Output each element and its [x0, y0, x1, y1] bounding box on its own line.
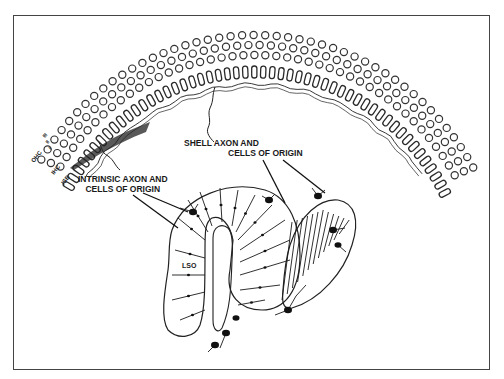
inner-hair-cell [138, 99, 149, 112]
cell-body [259, 286, 262, 288]
dendrite [303, 214, 313, 276]
inner-hair-cell [368, 103, 379, 116]
outer-hair-cell [137, 72, 144, 79]
outer-hair-cell [136, 84, 143, 91]
outer-hair-cell [100, 85, 107, 92]
outer-hair-cell [189, 50, 196, 57]
outer-hair-cell [418, 126, 425, 133]
outer-hair-cell [60, 140, 67, 147]
outer-hair-cell [160, 50, 167, 57]
outer-hair-cell [330, 44, 337, 51]
outer-hair-cell [434, 129, 441, 136]
inner-hair-cell [295, 70, 303, 83]
outer-hair-cell [75, 122, 82, 129]
outer-hair-cell [432, 143, 439, 150]
outer-hair-cell [91, 106, 98, 113]
inner-hair-cell [242, 66, 248, 78]
intrinsic-label-line2: CELLS OF ORIGIN [78, 184, 168, 194]
inner-hair-cell [123, 109, 134, 122]
inner-hair-cell [197, 73, 205, 86]
outer-hair-cell [273, 52, 280, 59]
outer-hair-cell [460, 168, 467, 175]
outer-hair-cell [193, 39, 200, 46]
inner-hair-cell [329, 81, 338, 94]
outer-hair-cell [239, 32, 246, 39]
outer-hair-cell [155, 74, 162, 81]
outer-hair-cell [419, 98, 426, 105]
outer-hair-cell [372, 64, 379, 71]
inner-hair-cell [375, 108, 386, 121]
outer-hair-cell [323, 53, 330, 60]
cell-body [264, 266, 267, 268]
dendrite [313, 210, 323, 264]
cochlea-lso-diagram [0, 0, 504, 379]
inner-hair-cell [179, 78, 188, 91]
cell-body [222, 330, 230, 336]
outer-hair-cell [344, 61, 351, 68]
outer-hair-cell [267, 42, 274, 49]
neuron-cell-bodies [187, 193, 342, 348]
lso-label: LSO [182, 262, 196, 269]
outer-hair-cell [451, 172, 458, 179]
outer-hair-cell [251, 51, 258, 58]
outer-hair-cell [204, 36, 211, 43]
outer-hair-cell [307, 38, 314, 45]
outer-hair-cell [126, 90, 133, 97]
intrinsic-axon-label: INTRINSIC AXON AND CELLS OF ORIGIN [78, 174, 168, 194]
outer-hair-cell [178, 53, 185, 60]
inner-hair-cell [162, 85, 172, 98]
inner-hair-cell [337, 85, 347, 98]
cell-body [261, 234, 264, 236]
outer-hair-cell [383, 83, 390, 90]
outer-hair-cell [117, 97, 124, 104]
inner-hair-cell [215, 69, 222, 82]
outer-hair-cell [425, 134, 432, 141]
outer-hair-cell [364, 71, 371, 78]
outer-hair-cell [312, 49, 319, 56]
outer-hair-cell [305, 58, 312, 65]
outer-hair-cell [91, 92, 98, 99]
outer-hair-cell [165, 69, 172, 76]
inner-hair-cell [154, 89, 164, 102]
outer-hair-cell [410, 104, 417, 111]
outer-hair-cell [402, 97, 409, 104]
cell-body [187, 295, 190, 297]
outer-hair-cell [410, 118, 417, 125]
outer-hair-cell [356, 78, 363, 85]
inner-hair-cell [352, 93, 362, 106]
cell-body [233, 315, 240, 321]
outer-hair-cell [385, 96, 392, 103]
inner-hair-cell [224, 68, 231, 81]
dendrite [339, 220, 349, 234]
outer-hair-cell [182, 42, 189, 49]
outer-hair-cell [445, 162, 452, 169]
outer-hair-cell [262, 52, 269, 59]
outer-hair-cell [109, 91, 116, 98]
outer-hair-cell [347, 73, 354, 80]
outer-hair-cell [351, 53, 358, 60]
outer-hair-cell [374, 77, 381, 84]
outer-hair-cell [362, 58, 369, 65]
cell-body [197, 215, 200, 217]
cell-body [335, 242, 342, 248]
outer-hair-cell [245, 42, 252, 49]
outer-hair-cell [401, 83, 408, 90]
inner-hair-cell [171, 82, 180, 95]
outer-hair-cell [284, 54, 291, 61]
outer-hair-cell [290, 45, 297, 52]
cell-body [329, 227, 337, 233]
outer-hair-cell [227, 33, 234, 40]
outer-hair-cell [402, 110, 409, 117]
outer-hair-cell [392, 76, 399, 83]
outer-hair-cell [222, 43, 229, 50]
outer-hair-cell [427, 107, 434, 114]
outer-hair-cell [301, 47, 308, 54]
outer-hair-cell [58, 127, 65, 134]
outer-hair-cell [119, 71, 126, 78]
outer-hair-cell [129, 65, 136, 72]
outer-hair-cell [100, 98, 107, 105]
inner-hair-cell [434, 179, 447, 190]
outer-hair-cell [285, 34, 292, 41]
outer-hair-cell [207, 56, 214, 63]
inner-hair-cell [424, 163, 437, 174]
